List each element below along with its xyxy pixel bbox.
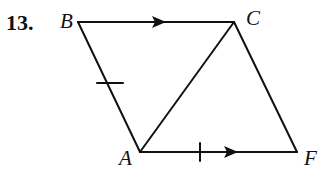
segment-ca xyxy=(140,22,234,152)
parallelogram-diagram xyxy=(0,0,320,169)
vertex-label-f: F xyxy=(304,146,317,169)
vertex-label-a: A xyxy=(119,146,132,169)
segment-cf xyxy=(234,22,297,152)
segment-ba xyxy=(78,22,140,152)
vertex-label-c: C xyxy=(246,6,260,31)
vertex-label-b: B xyxy=(60,9,73,34)
